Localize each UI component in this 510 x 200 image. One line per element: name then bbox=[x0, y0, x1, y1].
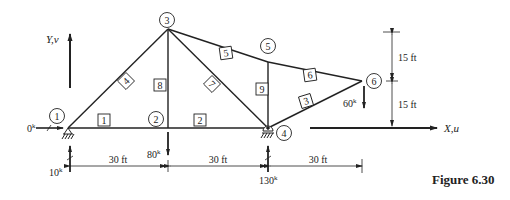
svg-text:2: 2 bbox=[198, 115, 203, 126]
svg-text:6: 6 bbox=[372, 76, 377, 87]
x-axis-label: X,u bbox=[443, 122, 459, 134]
member-label-8: 8 bbox=[154, 79, 166, 91]
svg-text:2: 2 bbox=[154, 114, 159, 125]
dim-upper: 15 ft bbox=[398, 52, 417, 63]
member-label-1: 1 bbox=[98, 114, 110, 126]
load-node-2: 80k bbox=[147, 132, 168, 160]
svg-text:5: 5 bbox=[266, 41, 271, 52]
member-7 bbox=[168, 29, 268, 128]
svg-text:60k: 60k bbox=[343, 97, 357, 109]
vertical-dimensions bbox=[383, 32, 400, 126]
truss-diagram: Y,v X,u 1 2 3 4 bbox=[0, 0, 510, 200]
dim-2-4: 30 ft bbox=[209, 154, 228, 165]
member-label-5: 5 bbox=[219, 46, 233, 60]
member-label-2: 2 bbox=[194, 114, 206, 126]
y-axis-label: Y,v bbox=[46, 33, 59, 45]
dimension-labels-vertical: 15 ft 15 ft bbox=[398, 52, 417, 110]
svg-text:1: 1 bbox=[102, 115, 107, 126]
node-label-1: 1 bbox=[50, 109, 65, 124]
node-label-3: 3 bbox=[160, 13, 175, 28]
svg-text:80k: 80k bbox=[147, 148, 161, 160]
svg-text:8: 8 bbox=[158, 80, 163, 91]
member-labels: 1 2 3 4 5 6 7 8 bbox=[98, 46, 317, 126]
member-label-4: 4 bbox=[118, 73, 135, 90]
svg-text:130k: 130k bbox=[259, 174, 278, 186]
dim-1-2: 30 ft bbox=[109, 154, 128, 165]
figure-caption: Figure 6.30 bbox=[432, 172, 495, 187]
member-5 bbox=[168, 29, 268, 62]
node-label-6: 6 bbox=[367, 74, 382, 89]
svg-text:9: 9 bbox=[260, 84, 265, 95]
svg-text:0k: 0k bbox=[27, 122, 36, 134]
pin-support-node-1 bbox=[62, 128, 74, 139]
load-node-1-vertical: 10k bbox=[49, 146, 73, 178]
node-label-5: 5 bbox=[261, 39, 276, 54]
member-label-9: 9 bbox=[256, 83, 268, 95]
dim-lower: 15 ft bbox=[398, 99, 417, 110]
svg-text:1: 1 bbox=[55, 111, 60, 122]
dim-4-6: 30 ft bbox=[309, 154, 328, 165]
node-label-4: 4 bbox=[277, 126, 292, 141]
node-label-2: 2 bbox=[149, 112, 164, 127]
dimension-labels-horizontal: 30 ft 30 ft 30 ft bbox=[109, 154, 328, 165]
svg-text:4: 4 bbox=[282, 128, 287, 139]
svg-text:3: 3 bbox=[165, 15, 170, 26]
x-axis: X,u bbox=[310, 122, 459, 134]
y-axis: Y,v bbox=[46, 33, 70, 88]
svg-text:10k: 10k bbox=[49, 166, 63, 178]
member-label-6: 6 bbox=[303, 68, 317, 82]
